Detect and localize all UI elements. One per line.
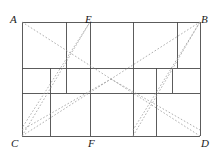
vertex-label-d: D: [201, 138, 209, 149]
dashed-lines-group: [22, 22, 200, 136]
diagonal-B-to-F2: [133, 22, 200, 130]
diagonal-mid-left-up: [22, 79, 111, 130]
vertex-label-f: F: [88, 138, 95, 149]
vertex-label-e: E: [85, 14, 92, 25]
vertex-label-a: A: [10, 14, 17, 25]
geometry-figure: AEBCFD: [0, 0, 221, 155]
vertex-label-c: C: [11, 138, 18, 149]
vertex-label-b: B: [201, 14, 208, 25]
diagonal-C-to-E: [22, 22, 90, 136]
diagonal-E-to-C2: [22, 22, 90, 128]
diagonal-mid-right-dn: [111, 79, 200, 130]
figure-canvas: [0, 0, 221, 155]
diagonal-F-to-B: [133, 22, 200, 136]
